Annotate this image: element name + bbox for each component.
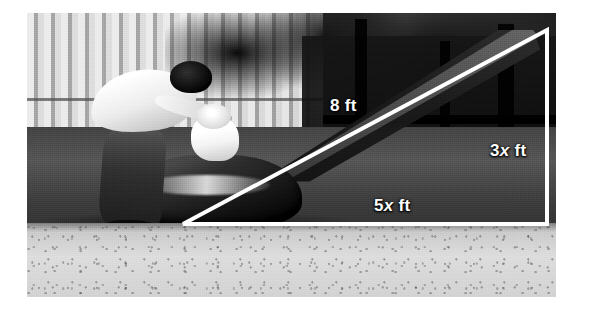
horizontal-leg-label: 5x ft (374, 196, 410, 216)
vertical-leg-label: 3x ft (490, 141, 526, 161)
hypotenuse-label: 8 ft (330, 96, 357, 116)
horizontal-leg-unit: ft (394, 196, 411, 215)
photo-content (27, 13, 556, 297)
adult-head (170, 61, 212, 92)
horizontal-leg-number: 5 (374, 196, 384, 215)
playground-photograph (27, 13, 556, 297)
gravel-texture (27, 223, 556, 297)
vertical-leg-unit: ft (510, 141, 527, 160)
adult-legs (98, 125, 168, 231)
vertical-leg-number: 3 (490, 141, 500, 160)
horizontal-leg-variable: x (384, 196, 394, 215)
figure-canvas: 8 ft 3x ft 5x ft (0, 0, 591, 315)
vertical-leg-variable: x (500, 141, 510, 160)
child-head (196, 104, 230, 130)
